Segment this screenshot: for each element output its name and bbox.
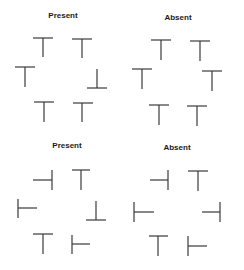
t-shape xyxy=(202,71,222,91)
t-shape xyxy=(190,41,210,61)
t-shape xyxy=(188,171,208,191)
stimulus-shapes xyxy=(0,0,244,270)
t-left-shape xyxy=(33,170,52,190)
t-right-shape xyxy=(188,236,207,256)
t-right-shape xyxy=(134,202,154,222)
t-shape xyxy=(149,105,169,125)
t-shape xyxy=(15,67,35,87)
t-shape xyxy=(73,103,93,122)
visual-search-diagram: Present Absent Present Absent xyxy=(0,0,244,270)
t-right-shape xyxy=(72,235,90,254)
t-shape xyxy=(151,40,171,60)
inverted-t-shape xyxy=(86,201,106,220)
t-shape xyxy=(33,38,53,57)
t-shape xyxy=(187,106,207,126)
t-shape xyxy=(72,39,92,58)
t-shape xyxy=(72,170,90,190)
t-shape xyxy=(33,234,53,254)
t-shape xyxy=(34,102,54,122)
t-left-shape xyxy=(150,170,168,190)
inverted-t-shape xyxy=(87,69,107,88)
t-shape xyxy=(132,69,152,89)
t-right-shape xyxy=(18,199,37,218)
t-left-shape xyxy=(202,202,220,222)
t-shape xyxy=(149,236,168,256)
